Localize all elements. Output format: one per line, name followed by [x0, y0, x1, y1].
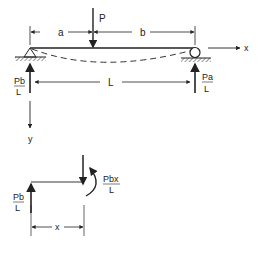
moment-arrow [86, 168, 96, 196]
roller-support [181, 48, 211, 63]
fbd-reaction-label: Pb L [13, 192, 24, 213]
svg-text:L: L [204, 84, 209, 94]
fbd-dim-x-label: x [55, 222, 60, 232]
free-body-diagram [31, 155, 96, 236]
svg-text:Pa: Pa [202, 72, 213, 82]
svg-text:L: L [15, 203, 20, 213]
deflection-curve [32, 49, 193, 62]
fbd-moment-label: Pbx L [103, 174, 120, 195]
load-label: P [99, 13, 106, 24]
x-axis-label: x [244, 43, 249, 53]
left-reaction-label: Pb L [14, 76, 25, 97]
right-reaction-label: Pa L [202, 72, 213, 94]
dimension-ab [30, 26, 195, 45]
beam-diagram: P a b x Pb L Pa L L y [0, 0, 263, 255]
dim-L-label: L [108, 77, 114, 88]
svg-text:Pb: Pb [14, 76, 25, 86]
svg-text:L: L [16, 87, 21, 97]
svg-text:Pb: Pb [13, 192, 24, 202]
svg-text:L: L [109, 185, 114, 195]
pin-support [15, 48, 46, 61]
dim-b-label: b [140, 27, 146, 38]
svg-text:Pbx: Pbx [103, 174, 119, 184]
y-axis-label: y [28, 134, 33, 144]
dim-a-label: a [58, 27, 64, 38]
